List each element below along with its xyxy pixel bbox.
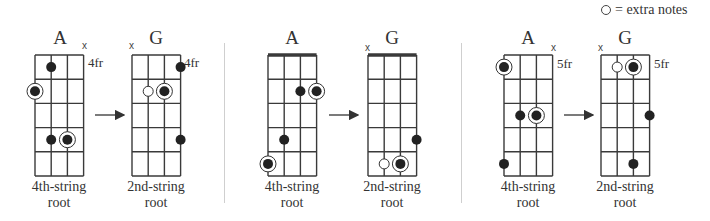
caption: 2nd-stringroot [570, 179, 680, 211]
caption: 4th-stringroot [473, 179, 583, 211]
caption: 2nd-stringroot [337, 179, 447, 211]
caption: 4th-stringroot [4, 179, 114, 211]
caption: 4th-stringroot [237, 179, 347, 211]
caption: 2nd-stringroot [101, 179, 211, 211]
chord-diagram-figure: = extra notes A G A G A G x x x x x 4fr … [0, 0, 710, 221]
